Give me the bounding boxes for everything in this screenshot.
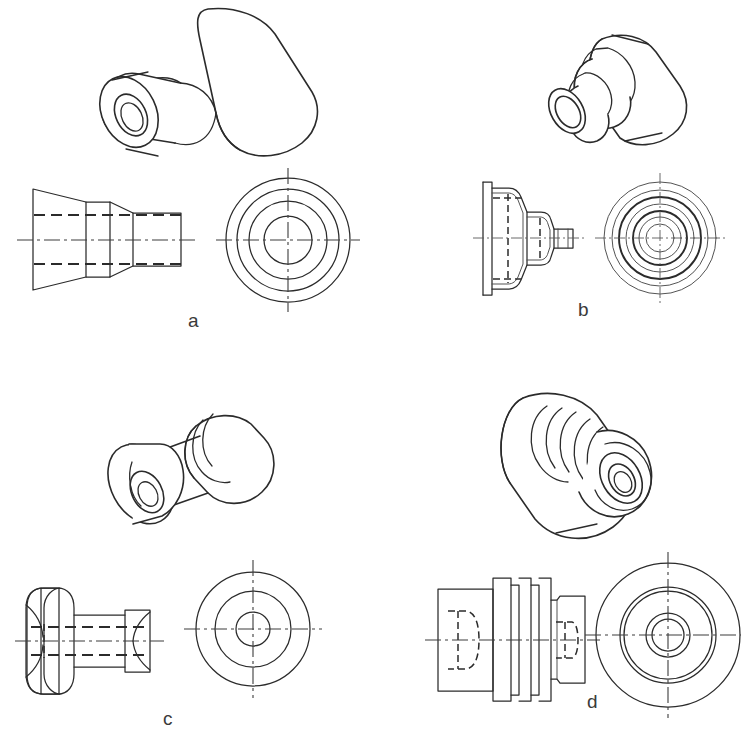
figure-c-front-view xyxy=(15,588,164,694)
figure-b-end-view xyxy=(595,173,725,303)
figure-d-isometric-view xyxy=(501,393,651,538)
figure-c-isometric-view xyxy=(95,414,274,535)
technical-drawing-canvas xyxy=(0,0,741,742)
figure-d-front-view xyxy=(425,578,600,701)
figure-d xyxy=(425,393,741,718)
figure-c-end-view xyxy=(184,560,322,698)
figure-d-end-view xyxy=(585,552,741,718)
figure-label-d: d xyxy=(587,691,598,713)
figure-a xyxy=(17,8,360,312)
figure-label-a: a xyxy=(188,310,199,332)
figure-b-front-view xyxy=(473,182,585,295)
figure-a-front-view xyxy=(17,189,196,290)
figure-b xyxy=(473,35,725,303)
figure-a-isometric-view xyxy=(89,8,318,157)
figure-label-c: c xyxy=(163,708,173,730)
figure-c xyxy=(15,414,322,698)
drawing-sheet: a b c d xyxy=(0,0,741,742)
figure-a-end-view xyxy=(216,168,360,312)
figure-b-isometric-view xyxy=(541,35,686,145)
figure-label-b: b xyxy=(578,299,589,321)
